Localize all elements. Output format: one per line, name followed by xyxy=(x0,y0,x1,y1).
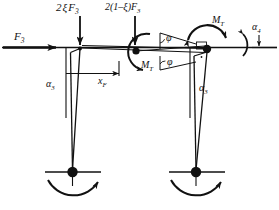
angle-phi-lower-marker xyxy=(160,56,196,70)
right-trailing-arm xyxy=(194,52,207,170)
label-force-2one-minus-xi-F3: 2(1–ξ)F3 xyxy=(105,2,141,15)
label-angle-alpha3-right: α3 xyxy=(199,83,208,96)
dimension-line-xF xyxy=(66,61,119,76)
label-force-F3: F3 xyxy=(14,31,24,45)
right-pivot-point xyxy=(197,42,212,58)
label-moment-MT-left: MT xyxy=(141,60,153,73)
mechanics-diagram xyxy=(0,0,279,210)
label-angle-phi-upper: φ xyxy=(166,33,172,43)
center-link xyxy=(82,46,205,53)
left-wheel-hub xyxy=(45,167,101,186)
figure-root: F3 2ξF3 2(1–ξ)F3 MT MT α3 α3 α4 φ φ xF xyxy=(0,0,279,210)
label-moment-MT-right: MT xyxy=(212,15,224,28)
label-angle-alpha4: α4 xyxy=(252,22,261,35)
label-force-2xiF3: 2ξF3 xyxy=(56,2,79,16)
label-dimension-xF: xF xyxy=(98,76,107,89)
label-angle-phi-lower: φ xyxy=(167,57,173,67)
right-wheel-hub xyxy=(169,167,225,186)
angle-alpha4-marker xyxy=(243,34,277,56)
left-trailing-arm xyxy=(71,49,81,171)
label-angle-alpha3-left: α3 xyxy=(46,79,55,92)
